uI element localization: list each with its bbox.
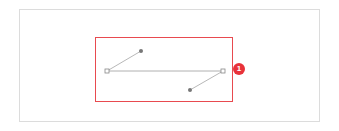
right-handle-line	[190, 71, 223, 90]
right-handle-point[interactable]	[188, 88, 192, 92]
left-handle-point[interactable]	[139, 49, 143, 53]
left-anchor-point[interactable]	[105, 69, 109, 73]
left-handle-line	[107, 51, 141, 71]
selection-highlight-box	[96, 38, 233, 102]
right-anchor-point[interactable]	[221, 69, 225, 73]
diagram-canvas	[0, 0, 339, 131]
callout-badge: 1	[233, 63, 245, 75]
